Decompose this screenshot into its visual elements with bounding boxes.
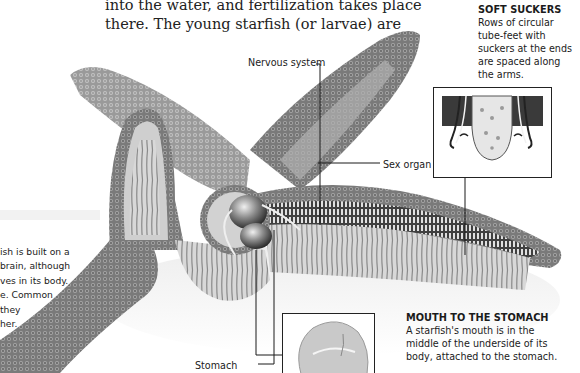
label-sex-organ: Sex organ bbox=[383, 159, 431, 170]
caption-line: body, attached to the stomach. bbox=[406, 350, 580, 363]
sidebar-text-line: ish is built on a bbox=[0, 245, 70, 259]
caption-title: MOUTH TO THE STOMACH bbox=[406, 311, 580, 324]
caption-line: are spaced along bbox=[478, 55, 580, 68]
label-nervous-system: Nervous system bbox=[248, 57, 325, 68]
sidebar-text-line: they bbox=[0, 303, 70, 317]
sidebar-text-line: brain, although bbox=[0, 259, 70, 273]
sidebar-header-bar bbox=[0, 210, 100, 220]
caption-title: SOFT SUCKERS bbox=[478, 3, 580, 16]
sidebar-text-line: e. Common bbox=[0, 288, 70, 302]
caption-line: tube-feet with bbox=[478, 29, 580, 42]
encyclopedia-page: into the water, and fertilization takes … bbox=[0, 0, 580, 373]
sidebar-text-line: ves in its body. bbox=[0, 274, 70, 288]
caption-line: A starfish's mouth is in the bbox=[406, 324, 580, 337]
body-text: into the water, and fertilization takes … bbox=[105, 0, 422, 34]
sidebar-text: ish is built on a brain, although ves in… bbox=[0, 245, 70, 331]
body-text-line: into the water, and fertilization takes … bbox=[105, 0, 422, 15]
caption-mouth-to-stomach: MOUTH TO THE STOMACH A starfish's mouth … bbox=[406, 311, 580, 363]
sidebar-text-line: her. bbox=[0, 317, 70, 331]
caption-line: Rows of circular bbox=[478, 16, 580, 29]
mouth-diagram bbox=[283, 314, 374, 373]
caption-line: suckers at the ends bbox=[478, 42, 580, 55]
caption-line: the arms. bbox=[478, 68, 580, 81]
caption-line: middle of the underside of its bbox=[406, 337, 580, 350]
inset-mouth bbox=[282, 313, 375, 373]
body-text-line: there. The young starfish (or larvae) ar… bbox=[105, 15, 422, 34]
tube-feet-diagram bbox=[434, 88, 551, 177]
label-stomach: Stomach bbox=[195, 360, 237, 371]
caption-soft-suckers: SOFT SUCKERS Rows of circular tube-feet … bbox=[478, 3, 580, 81]
inset-soft-suckers bbox=[433, 87, 552, 178]
